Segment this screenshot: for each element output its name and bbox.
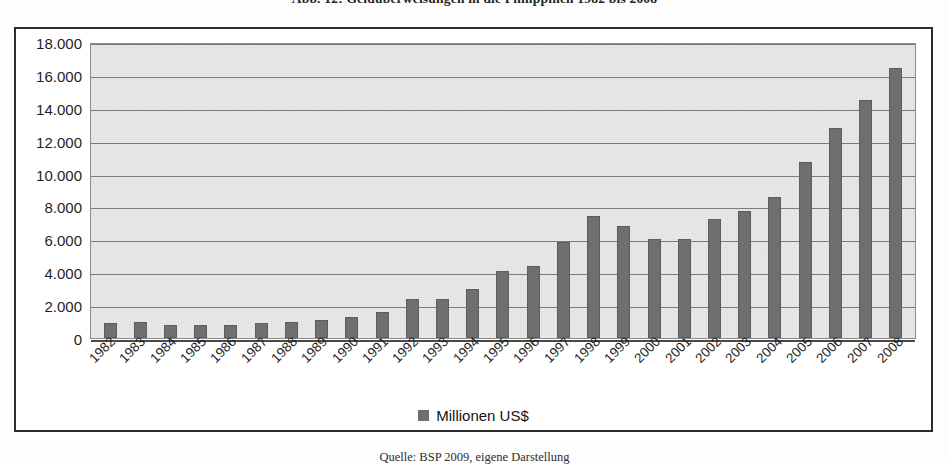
y-axis-tick-label: 18.000	[36, 35, 82, 52]
x-axis-slot: 2008	[882, 349, 912, 407]
bar	[738, 211, 751, 338]
bar-slot	[760, 44, 790, 338]
bar	[164, 325, 177, 338]
bar	[768, 197, 781, 338]
bar-slot	[337, 44, 367, 338]
y-axis-tick-label: 6.000	[44, 232, 82, 249]
x-axis: 1982198319841985198619871988198919901991…	[90, 349, 916, 407]
bar	[496, 271, 509, 338]
bar	[194, 325, 207, 338]
bar-slot	[155, 44, 185, 338]
bar	[678, 239, 691, 338]
bar	[648, 239, 661, 338]
bar	[436, 299, 449, 338]
source-caption: Quelle: BSP 2009, eigene Darstellung	[0, 450, 949, 464]
bar	[376, 312, 389, 338]
y-axis-tick-label: 4.000	[44, 265, 82, 282]
bar-slot	[730, 44, 760, 338]
bar	[557, 242, 570, 338]
bar-slot	[367, 44, 397, 338]
bar-slot	[669, 44, 699, 338]
y-axis-tick-label: 16.000	[36, 67, 82, 84]
bar	[104, 323, 117, 338]
bar-slot	[850, 44, 880, 338]
bar-slot	[125, 44, 155, 338]
y-axis-tick-label: 0	[74, 331, 82, 348]
bar	[134, 322, 147, 338]
bar-slot	[458, 44, 488, 338]
bar-slot	[427, 44, 457, 338]
bar	[829, 128, 842, 338]
bar	[617, 226, 630, 338]
bar-slot	[397, 44, 427, 338]
chart-frame: 18.00016.00014.00012.00010.0008.0006.000…	[14, 27, 933, 432]
bar-slot	[820, 44, 850, 338]
bar-slot	[307, 44, 337, 338]
bar-slot	[276, 44, 306, 338]
bar-slot	[639, 44, 669, 338]
bar-slot	[246, 44, 276, 338]
y-axis-tick-label: 12.000	[36, 133, 82, 150]
bar-slot	[95, 44, 125, 338]
figure-title: Abb. 12: Geldüberweisungen in die Philip…	[0, 0, 949, 9]
y-axis-tick-label: 2.000	[44, 298, 82, 315]
bar-slot	[699, 44, 729, 338]
bar-slot	[216, 44, 246, 338]
bar	[587, 216, 600, 338]
legend-label: Millionen US$	[436, 407, 529, 424]
y-axis-tick-label: 10.000	[36, 166, 82, 183]
legend: Millionen US$	[16, 407, 931, 424]
plot-canvas	[90, 43, 916, 339]
bar	[889, 68, 902, 338]
bar	[527, 266, 540, 338]
bar-slot	[579, 44, 609, 338]
y-axis-tick-label: 8.000	[44, 199, 82, 216]
legend-swatch-icon	[418, 410, 429, 421]
bar-slot	[609, 44, 639, 338]
bar	[255, 323, 268, 338]
bar-slot	[548, 44, 578, 338]
plot-area	[90, 41, 916, 351]
bar-slot	[790, 44, 820, 338]
bar-slot	[186, 44, 216, 338]
bar-slot	[881, 44, 911, 338]
bar	[315, 320, 328, 338]
bar	[466, 289, 479, 338]
y-axis: 18.00016.00014.00012.00010.0008.0006.000…	[16, 41, 86, 341]
bar-slot	[488, 44, 518, 338]
y-axis-tick-label: 14.000	[36, 100, 82, 117]
bar	[285, 322, 298, 338]
bar	[708, 219, 721, 338]
bar	[345, 317, 358, 338]
bar-slot	[518, 44, 548, 338]
bar	[859, 100, 872, 338]
bar	[406, 299, 419, 338]
bar	[799, 162, 812, 338]
bar-series	[91, 44, 915, 338]
bar	[224, 325, 237, 338]
